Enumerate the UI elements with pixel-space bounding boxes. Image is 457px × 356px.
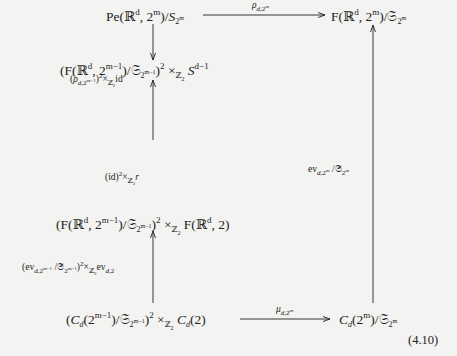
node-bottom-right: Cd(2m)/𝔖2m — [339, 311, 397, 329]
node-row3: (F(ℝd, 2m−1)/𝔖2m−1)2 ×ℤ2 F(ℝd, 2) — [56, 216, 230, 236]
node-top-left: Pe(ℝd, 2m)/S2m — [106, 8, 184, 26]
label-left-3: (evd,2m−1 /𝔖2m−1)2×ℤ2evd,2 — [22, 261, 114, 276]
node-bottom-left: (Cd(2m−1)/𝔖2m−1)2 ×ℤ2 Cd(2) — [66, 311, 206, 331]
label-left-2: (id)2×ℤ2r — [105, 171, 139, 186]
node-top-right: F(ℝd, 2m)/𝔖2m — [331, 8, 406, 26]
label-mu: μd,2m — [276, 305, 293, 317]
diagram-arrows — [0, 0, 457, 356]
equation-number: (4.10) — [408, 333, 438, 348]
label-right-ev: evd,2m /𝔖2m — [308, 165, 349, 177]
node-row2: (F(ℝd, 2m−1)/𝔖2m−1)2 ×ℤ2 Sd−1 — [60, 62, 209, 82]
label-rho: ρd,2m — [252, 1, 269, 13]
